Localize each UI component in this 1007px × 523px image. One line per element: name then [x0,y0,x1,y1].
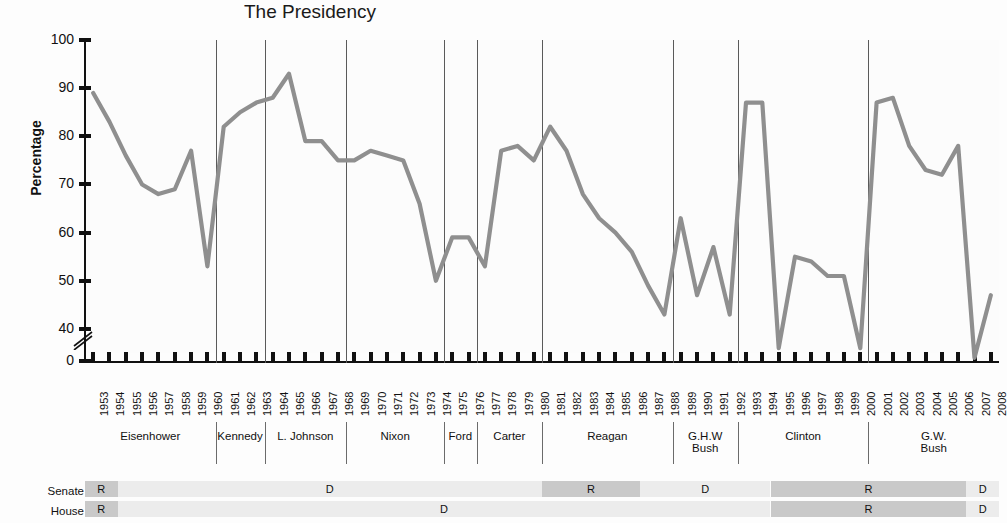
senate-party-segment: D [118,481,542,497]
chart-root: The Presidency Percentage 10090807060504… [0,0,1007,523]
senate-party-segment: R [85,481,118,497]
senate-party-segment: D [640,481,771,497]
house-party-segment: D [966,501,999,517]
approval-line-chart [0,0,1007,523]
house-party-segment: R [85,501,118,517]
senate-party-segment: R [542,481,640,497]
senate-party-segment: R [771,481,967,497]
senate-row-label: Senate [14,485,84,497]
senate-party-segment: D [966,481,999,497]
house-party-row: RDRD [85,501,999,517]
senate-party-row: RDRDRD [85,481,999,497]
house-party-segment: R [771,501,967,517]
house-party-segment: D [118,501,771,517]
house-row-label: House [14,505,84,517]
